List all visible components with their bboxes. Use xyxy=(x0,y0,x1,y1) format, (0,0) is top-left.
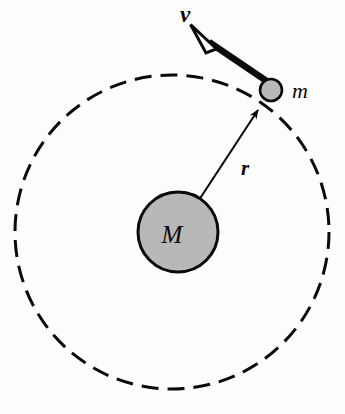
velocity-label: v xyxy=(180,2,191,27)
diagram-canvas: v r m M xyxy=(0,0,345,414)
central-mass-label: M xyxy=(161,221,184,248)
radius-label: r xyxy=(241,156,250,180)
orbiting-mass-circle xyxy=(260,79,282,101)
velocity-vector-shaft xyxy=(209,42,268,82)
velocity-arrowhead xyxy=(191,25,217,54)
orbiting-mass-label: m xyxy=(292,78,308,103)
velocity-vector-group xyxy=(191,25,269,83)
orbital-diagram: v r m M xyxy=(0,0,345,414)
